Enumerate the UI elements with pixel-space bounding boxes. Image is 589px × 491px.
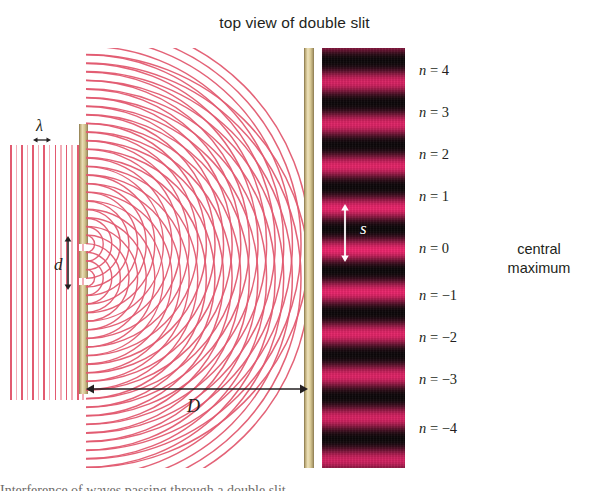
plane-wavefront-line xyxy=(21,145,23,400)
wavelength-arrow-icon xyxy=(33,136,51,144)
central-maximum-label: central maximum xyxy=(496,240,582,278)
order-label-n1: n = 1 xyxy=(419,188,449,205)
screen-distance-arrow-icon xyxy=(86,381,308,397)
plane-wavefront-line-faint xyxy=(27,145,28,400)
double-slit-diagram: top view of double slit λ d s D n = 4 xyxy=(0,0,589,491)
order-label-n4: n = 4 xyxy=(419,62,449,79)
plane-wavefront-line-faint xyxy=(49,145,50,400)
order-label-nneg4: n = −4 xyxy=(419,420,457,437)
order-value: = −4 xyxy=(426,420,457,436)
plane-wavefronts xyxy=(8,145,86,400)
plane-wavefront-line xyxy=(43,145,45,400)
slit-separation-arrow-icon xyxy=(62,236,74,290)
interference-fringe-pattern xyxy=(322,48,405,468)
order-label-n3: n = 3 xyxy=(419,104,449,121)
plane-wavefront-line-faint xyxy=(16,145,17,400)
plane-wavefront-line xyxy=(32,145,34,400)
wavelength-label: λ xyxy=(36,117,43,135)
order-label-nneg2: n = −2 xyxy=(419,329,457,346)
fringe-texture-overlay xyxy=(322,48,405,468)
screen-distance-label: D xyxy=(187,396,200,417)
order-value: = −1 xyxy=(426,287,457,303)
plane-wavefront-line-faint xyxy=(38,145,39,400)
order-value: = 0 xyxy=(426,240,449,256)
order-value: = 3 xyxy=(426,104,449,120)
order-label-nneg3: n = −3 xyxy=(419,371,457,388)
order-label-n0: n = 0 xyxy=(419,240,449,257)
order-value: = −3 xyxy=(426,371,457,387)
order-value: = 4 xyxy=(426,62,449,78)
fringe-spacing-label: s xyxy=(360,219,367,239)
order-label-nneg1: n = −1 xyxy=(419,287,457,304)
plane-wavefront-line xyxy=(10,145,12,400)
order-label-n2: n = 2 xyxy=(419,146,449,163)
order-value: = 1 xyxy=(426,188,449,204)
figure-title: top view of double slit xyxy=(0,14,589,32)
order-value: = 2 xyxy=(426,146,449,162)
detector-screen-bar xyxy=(304,48,314,468)
order-value: = −2 xyxy=(426,329,457,345)
caption-remnant: Interference of waves passing through a … xyxy=(0,484,589,491)
fringe-spacing-arrow-icon xyxy=(338,204,352,262)
